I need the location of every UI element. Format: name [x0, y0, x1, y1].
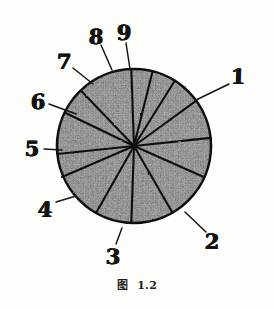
circle-diagram	[0, 0, 274, 309]
callout-label-7: 7	[56, 51, 71, 72]
caption-prefix: 图	[117, 279, 128, 292]
caption-number: 1.2	[137, 279, 157, 292]
figure-container: 1 2 3 4 5 6 7 8 9 图1.2	[0, 0, 274, 309]
leader-line-8	[101, 45, 112, 70]
callout-label-5: 5	[24, 138, 39, 159]
leader-line-3	[116, 228, 122, 244]
leader-line-7	[73, 68, 93, 84]
callout-label-8: 8	[88, 26, 103, 47]
figure-caption: 图1.2	[0, 276, 274, 292]
callout-label-3: 3	[105, 246, 120, 267]
leader-line-5	[44, 149, 62, 150]
callout-label-2: 2	[204, 231, 219, 252]
leader-line-9	[126, 43, 130, 69]
callout-label-6: 6	[30, 91, 45, 112]
callout-label-4: 4	[37, 199, 52, 220]
callout-label-1: 1	[230, 66, 245, 87]
leader-line-2	[185, 212, 206, 232]
leader-line-1	[196, 84, 229, 100]
callout-label-9: 9	[116, 22, 131, 43]
leader-line-4	[56, 196, 76, 202]
